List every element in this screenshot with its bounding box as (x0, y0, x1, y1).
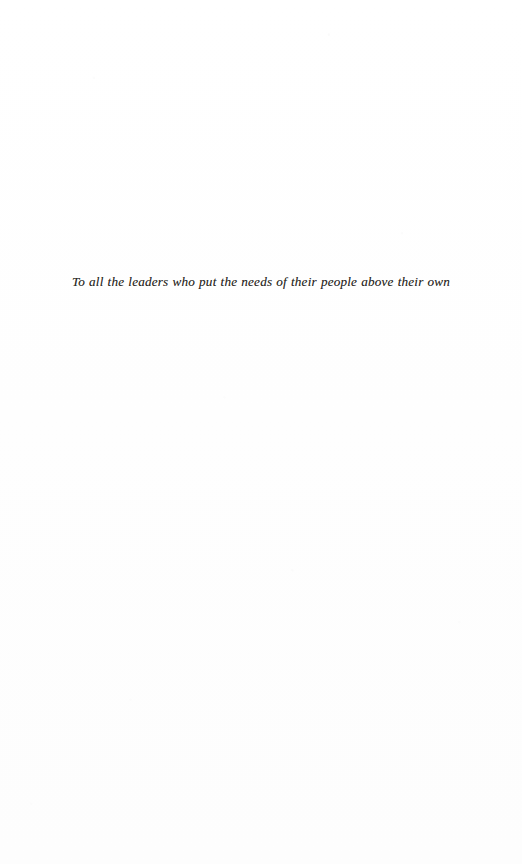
dedication-block: To all the leaders who put the needs of … (0, 271, 522, 292)
dedication-page: To all the leaders who put the needs of … (0, 0, 522, 864)
dedication-text: To all the leaders who put the needs of … (72, 271, 450, 292)
